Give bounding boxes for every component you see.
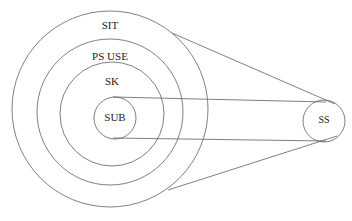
ring-label-sub: SUB [104,111,125,123]
ring-circle-sit [12,11,208,207]
ring-label-sk: SK [105,75,119,87]
connector-outer-lower-tangent [168,136,337,190]
connector-inner-lower-tangent [113,138,326,141]
connector-inner-upper-tangent [113,97,326,102]
connector-outer-upper-tangent [172,33,335,104]
venn-diagram-canvas: SIT PS USE SK SUB SS [0,0,352,221]
node-label-ss: SS [318,114,329,125]
ring-label-sit: SIT [102,19,119,31]
ring-label-ps-use: PS USE [92,50,128,62]
venn-diagram-svg: SIT PS USE SK SUB SS [0,0,352,221]
